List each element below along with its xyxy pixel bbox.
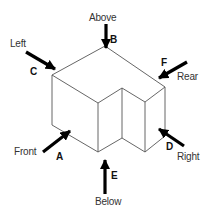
label-left: Left xyxy=(10,39,26,49)
letter-b: B xyxy=(110,35,117,45)
letter-e: E xyxy=(111,171,118,181)
label-below: Below xyxy=(95,197,121,207)
block-drawing xyxy=(0,0,208,216)
letter-c: C xyxy=(30,67,37,77)
letter-f: F xyxy=(161,58,167,68)
letter-d: D xyxy=(166,142,173,152)
label-rear: Rear xyxy=(177,72,198,82)
block-outline xyxy=(52,46,165,152)
label-right: Right xyxy=(177,152,199,162)
arrow-front-icon xyxy=(43,131,70,152)
label-above: Above xyxy=(89,13,116,23)
label-front: Front xyxy=(14,147,36,157)
isometric-diagram: Left C Above B F Rear Front A D Right E … xyxy=(0,0,208,216)
letter-a: A xyxy=(56,152,63,162)
